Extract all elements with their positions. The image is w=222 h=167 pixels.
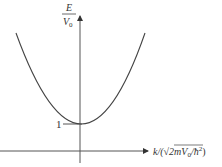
x-axis-label: k/(√2mV0/ħ2) <box>153 145 206 159</box>
y-label-numerator: E <box>65 2 72 13</box>
y-label-denominator: V0 <box>63 16 73 29</box>
dispersion-chart: 1 E V0 k/(√2mV0/ħ2) <box>0 0 222 167</box>
y-tick-label: 1 <box>56 118 62 130</box>
